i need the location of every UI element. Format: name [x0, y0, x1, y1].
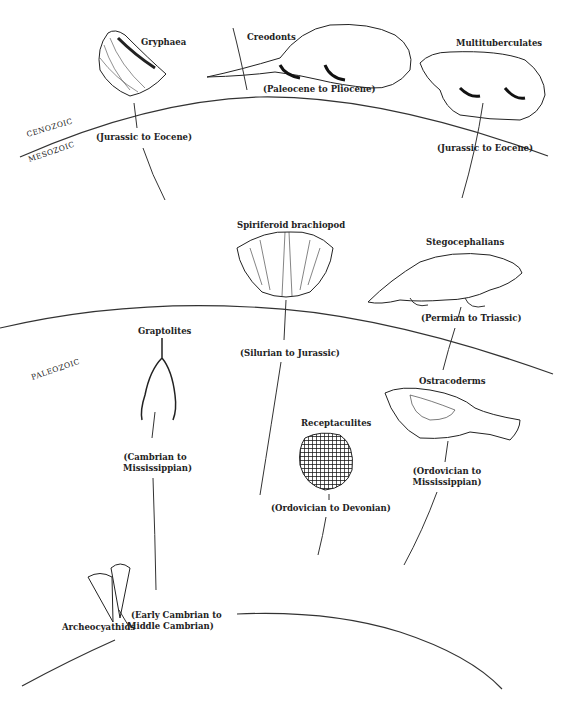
fossil-range-graptolites-line1: (Cambrian to [123, 452, 187, 463]
fossil-range-spiriferoid-brachiopod: (Silurian to Jurassic) [240, 348, 340, 359]
fossil-range-archeocyathids-line1: (Early Cambrian to [127, 610, 222, 621]
fossil-range-graptolites: (Cambrian to Mississippian) [123, 452, 187, 473]
fossil-range-graptolites-line2: Mississippian) [123, 463, 187, 474]
fossil-range-ostracoderms-line2: Mississippian) [407, 477, 487, 488]
fossil-name-spiriferoid-brachiopod: Spiriferoid brachiopod [237, 220, 345, 231]
fossil-name-multituberculates: Multituberculates [456, 38, 542, 49]
fossil-name-ostracoderms: Ostracoderms [419, 376, 486, 387]
fossil-name-gryphaea: Gryphaea [141, 37, 186, 48]
fossil-range-stegocephalians: (Permian to Triassic) [421, 313, 521, 324]
receptaculites-illustration [300, 433, 353, 555]
fossil-range-multituberculates: (Jurassic to Eocene) [437, 143, 533, 154]
multituberculate-illustration [420, 52, 545, 198]
fossil-name-receptaculites: Receptaculites [301, 418, 371, 429]
fossil-name-graptolites: Graptolites [138, 326, 191, 337]
paleozoic-precambrian-boundary-left [22, 640, 115, 686]
fossil-range-gryphaea: (Jurassic to Eocene) [96, 132, 192, 143]
fossil-name-stegocephalians: Stegocephalians [426, 237, 504, 248]
paleozoic-precambrian-boundary-right [237, 613, 502, 689]
fossil-range-ostracoderms-line1: (Ordovician to [407, 466, 487, 477]
fossil-range-ostracoderms: (Ordovician to Mississippian) [407, 466, 487, 487]
fossil-range-creodonts: (Paleocene to Pliocene) [263, 84, 375, 95]
fossil-range-receptaculites: (Ordovician to Devonian) [271, 503, 391, 514]
fossil-range-archeocyathids-line2: Middle Cambrian) [127, 621, 222, 632]
gryphaea-illustration [99, 31, 166, 200]
fossil-range-archeocyathids: (Early Cambrian to Middle Cambrian) [127, 610, 222, 631]
stegocephalian-illustration [368, 254, 522, 370]
creodont-illustration [207, 24, 411, 90]
fossil-name-creodonts: Creodonts [247, 32, 296, 43]
archeocyathid-illustration [88, 564, 130, 625]
fossil-name-archeocyathids: Archeocyathids [62, 622, 135, 633]
